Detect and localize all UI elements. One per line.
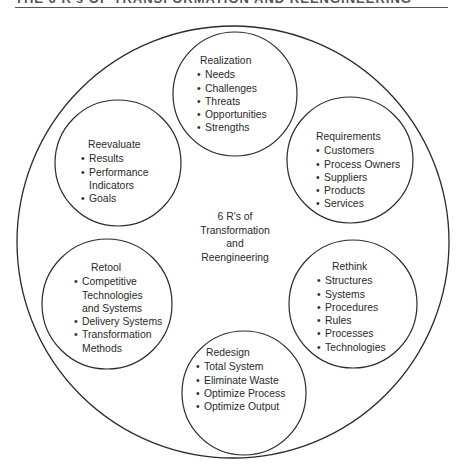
node-requirements: Requirements Customers Process Owners Su…: [316, 130, 400, 211]
list-item: Services: [316, 197, 400, 210]
list-item: Technologies: [317, 341, 386, 354]
list-item: Performance Indicators: [81, 166, 159, 193]
list-item: Procedures: [317, 301, 386, 314]
center-label-line: 6 R's of: [183, 210, 287, 224]
list-item: Customers: [316, 144, 400, 157]
node-title: Retool: [74, 261, 174, 274]
center-label-line: and: [183, 237, 287, 251]
list-item: Opportunities: [197, 108, 267, 121]
list-item: Structures: [317, 274, 386, 287]
center-label: 6 R's of Transformation and Reengineerin…: [183, 210, 287, 264]
node-title: Rethink: [317, 260, 386, 273]
list-item: Results: [81, 152, 176, 165]
list-item: Suppliers: [316, 171, 400, 184]
node-title: Redesign: [196, 346, 285, 359]
center-label-line: Transformation: [183, 224, 287, 238]
list-item: Eliminate Waste: [196, 374, 285, 387]
node-rethink: Rethink Structures Systems Procedures Ru…: [317, 260, 386, 354]
list-item: Products: [316, 184, 400, 197]
list-item: Goals: [81, 192, 176, 205]
list-item: Needs: [197, 68, 267, 81]
node-title: Reevaluate: [81, 138, 176, 151]
node-title: Realization: [197, 54, 267, 67]
list-item: Transformation Methods: [74, 328, 162, 355]
list-item: Competitive Technologies and Systems: [74, 275, 152, 315]
list-item: Threats: [197, 95, 267, 108]
node-retool: Retool Competitive Technologies and Syst…: [74, 261, 174, 355]
list-item: Systems: [317, 288, 386, 301]
node-reevaluate: Reevaluate Results Performance Indicator…: [81, 138, 176, 205]
list-item: Challenges: [197, 82, 267, 95]
node-realization: Realization Needs Challenges Threats Opp…: [197, 54, 267, 135]
list-item: Optimize Process: [196, 387, 285, 400]
list-item: Strengths: [197, 121, 267, 134]
center-label-line: Reengineering: [183, 251, 287, 265]
node-redesign: Redesign Total System Eliminate Waste Op…: [196, 346, 285, 413]
list-item: Delivery Systems: [74, 315, 174, 328]
list-item: Optimize Output: [196, 400, 285, 413]
list-item: Processes: [317, 327, 386, 340]
node-title: Requirements: [316, 130, 400, 143]
list-item: Process Owners: [316, 158, 400, 171]
list-item: Total System: [196, 360, 285, 373]
list-item: Rules: [317, 314, 386, 327]
